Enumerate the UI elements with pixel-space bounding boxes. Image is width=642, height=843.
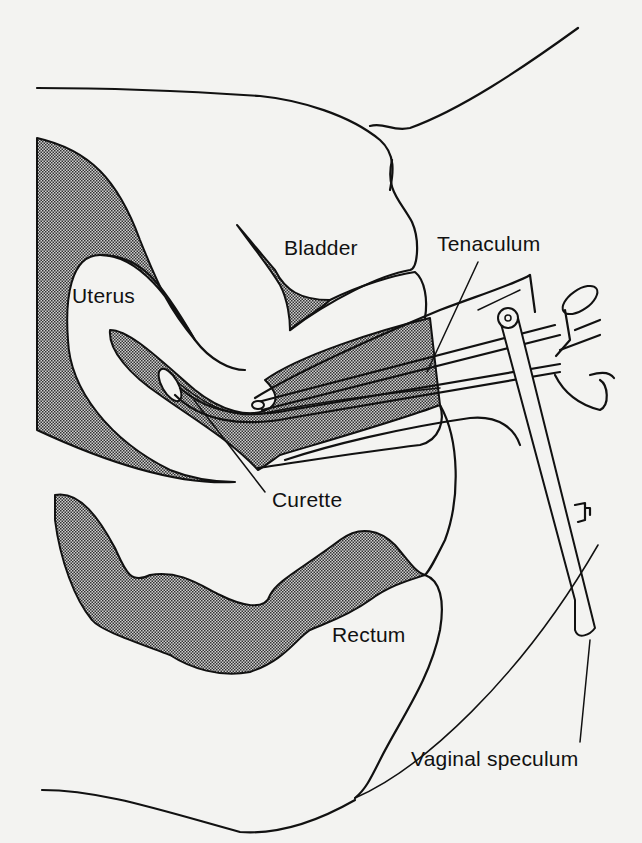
posterior-tissue-shading: [37, 138, 235, 482]
rectum-label: Rectum: [332, 623, 406, 647]
bladder-label: Bladder: [284, 236, 358, 260]
tenaculum-tip: [252, 401, 264, 409]
curette-label: Curette: [272, 488, 342, 512]
tenaculum-label: Tenaculum: [437, 232, 540, 256]
tenaculum-leader-line: [427, 262, 478, 372]
diagram-canvas: Bladder Uterus Tenaculum Curette Rectum …: [0, 0, 642, 843]
speculum-screw: [575, 503, 590, 522]
uterus-label: Uterus: [72, 284, 135, 308]
speculum-pivot: [498, 308, 518, 328]
pubic-outline: [370, 28, 578, 129]
buttock-outline: [42, 790, 355, 832]
speculum-leader-line: [580, 640, 590, 742]
anatomy-illustration: [0, 0, 642, 843]
vaginal-speculum-label: Vaginal speculum: [411, 747, 578, 771]
vulva-outline: [555, 373, 614, 410]
posterior-vaginal-outline: [425, 405, 456, 575]
